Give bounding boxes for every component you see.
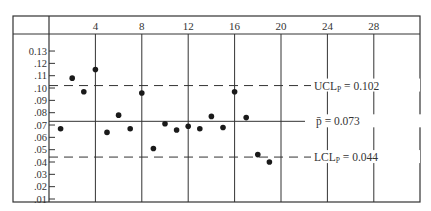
outer-border — [13, 16, 420, 202]
data-point — [69, 75, 75, 81]
y-tick-label: .04 — [34, 157, 48, 168]
y-tick-label: .05 — [34, 144, 47, 155]
y-axis-ticks: 0.13.12.11.10.09.08.07.06.05.04.03.02.01 — [29, 46, 55, 205]
y-tick-label: .09 — [34, 95, 47, 106]
data-point — [267, 159, 273, 165]
y-tick-label: .07 — [34, 120, 47, 131]
lcl-label: LCLP = 0.044 — [314, 151, 378, 165]
data-point — [185, 123, 191, 129]
data-point — [58, 126, 64, 132]
y-tick-label: .11 — [34, 70, 47, 81]
y-tick-label: .12 — [34, 58, 47, 69]
x-tick-label: 4 — [93, 20, 99, 32]
x-tick-label: 24 — [322, 20, 334, 32]
y-tick-label: 0.13 — [29, 46, 47, 57]
y-tick-label: .01 — [34, 194, 47, 205]
data-point — [174, 127, 180, 133]
x-axis-ticks: 481216202428 — [93, 20, 380, 202]
data-point — [116, 112, 122, 118]
data-point — [232, 89, 238, 95]
y-tick-label: .03 — [34, 169, 47, 180]
ucl-label: UCLP = 0.102 — [314, 80, 380, 94]
data-point — [197, 126, 203, 132]
data-point — [127, 126, 133, 132]
y-tick-label: .02 — [34, 181, 47, 192]
x-tick-label: 12 — [183, 20, 194, 32]
data-point — [255, 152, 261, 158]
chart-frame — [13, 16, 420, 202]
data-point — [162, 121, 168, 127]
x-tick-label: 16 — [229, 20, 241, 32]
data-points — [58, 67, 272, 165]
data-point — [220, 125, 226, 131]
x-tick-label: 8 — [139, 20, 145, 32]
data-point — [209, 114, 215, 120]
x-tick-label: 28 — [368, 20, 380, 32]
center-label: p̄ = 0.073 — [316, 115, 360, 128]
data-point — [243, 115, 249, 121]
x-tick-label: 20 — [276, 20, 288, 32]
data-point — [93, 67, 99, 73]
data-point — [81, 89, 87, 95]
data-point — [104, 130, 110, 136]
p-control-chart: 481216202428 0.13.12.11.10.09.08.07.06.0… — [0, 0, 431, 211]
y-tick-label: .06 — [34, 132, 47, 143]
y-tick-label: .10 — [34, 83, 47, 94]
data-point — [151, 146, 157, 152]
data-point — [139, 90, 145, 96]
y-tick-label: .08 — [34, 107, 47, 118]
